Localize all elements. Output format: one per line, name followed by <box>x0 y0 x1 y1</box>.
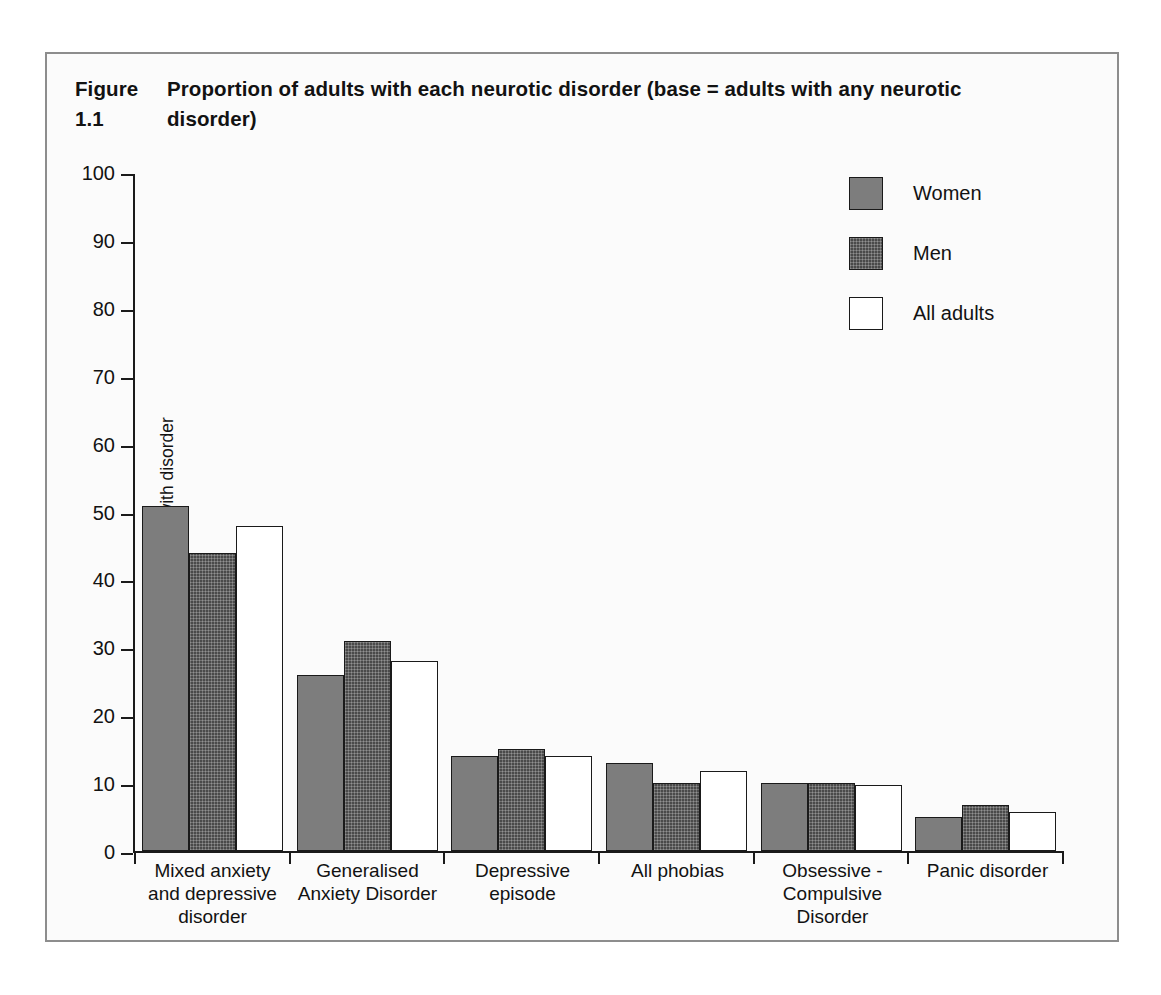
legend-swatch-icon <box>849 297 883 330</box>
x-axis-label: All phobias <box>600 859 755 929</box>
legend-swatch-icon <box>849 177 883 210</box>
bar-all-adults[interactable] <box>545 756 592 851</box>
bar-group <box>599 174 754 851</box>
bar-all-adults[interactable] <box>700 771 747 851</box>
y-axis-tick-label: 100 <box>55 162 115 185</box>
legend-item[interactable]: Men <box>849 236 994 270</box>
legend-label: Men <box>913 242 952 265</box>
y-axis-tick: 40 <box>121 581 133 583</box>
y-axis-tick-label: 80 <box>55 298 115 321</box>
bar-women[interactable] <box>297 675 344 851</box>
bar-women[interactable] <box>142 506 189 851</box>
figure-frame: Figure 1.1Proportion of adults with each… <box>45 52 1119 942</box>
figure-number: Figure 1.1 <box>75 74 167 133</box>
chart-legend: WomenMenAll adults <box>849 176 994 356</box>
y-axis-tick-label: 10 <box>55 773 115 796</box>
y-axis-tick: 90 <box>121 242 133 244</box>
bar-men[interactable] <box>344 641 391 851</box>
y-axis-tick: 100 <box>121 174 133 176</box>
bar-all-adults[interactable] <box>855 785 902 851</box>
y-axis-tick: 50 <box>121 514 133 516</box>
x-axis-label: Obsessive -CompulsiveDisorder <box>755 859 910 929</box>
x-axis-label: Mixed anxietyand depressivedisorder <box>135 859 290 929</box>
legend-swatch-icon <box>849 237 883 270</box>
legend-label: All adults <box>913 302 994 325</box>
y-axis-tick: 0 <box>121 853 133 855</box>
bar-men[interactable] <box>808 783 855 851</box>
legend-item[interactable]: Women <box>849 176 994 210</box>
bar-all-adults[interactable] <box>391 661 438 851</box>
figure-caption: Proportion of adults with each neurotic … <box>167 74 1027 133</box>
legend-label: Women <box>913 182 982 205</box>
y-axis-tick: 30 <box>121 649 133 651</box>
bar-men[interactable] <box>653 783 700 851</box>
bar-women[interactable] <box>451 756 498 851</box>
y-axis-tick: 10 <box>121 785 133 787</box>
bar-men[interactable] <box>189 553 236 851</box>
y-axis-tick-label: 20 <box>55 705 115 728</box>
bar-men[interactable] <box>962 805 1009 851</box>
x-axis-label: Panic disorder <box>910 859 1065 929</box>
bar-women[interactable] <box>761 783 808 851</box>
y-axis-tick: 80 <box>121 310 133 312</box>
y-axis-tick-label: 40 <box>55 569 115 592</box>
bar-group <box>444 174 599 851</box>
x-axis-labels: Mixed anxietyand depressivedisorderGener… <box>135 859 1065 929</box>
y-axis-tick: 70 <box>121 378 133 380</box>
bar-group <box>290 174 445 851</box>
y-axis-tick-label: 30 <box>55 637 115 660</box>
y-axis-tick-label: 60 <box>55 434 115 457</box>
bar-women[interactable] <box>606 763 653 851</box>
y-axis-tick-label: 50 <box>55 502 115 525</box>
y-axis-tick: 60 <box>121 446 133 448</box>
bar-all-adults[interactable] <box>236 526 283 851</box>
figure-title: Figure 1.1Proportion of adults with each… <box>75 74 1085 133</box>
y-axis-tick-label: 70 <box>55 366 115 389</box>
y-axis-tick-label: 0 <box>55 841 115 864</box>
legend-item[interactable]: All adults <box>849 296 994 330</box>
bar-all-adults[interactable] <box>1009 812 1056 851</box>
x-axis-label: Depressiveepisode <box>445 859 600 929</box>
x-axis-label: GeneralisedAnxiety Disorder <box>290 859 445 929</box>
y-axis-tick-label: 90 <box>55 230 115 253</box>
y-axis-tick: 20 <box>121 717 133 719</box>
bar-women[interactable] <box>915 817 962 851</box>
bar-men[interactable] <box>498 749 545 851</box>
bar-group <box>135 174 290 851</box>
